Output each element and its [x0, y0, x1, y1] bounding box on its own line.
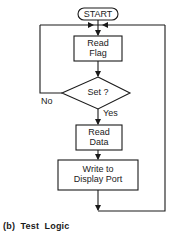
no-label: No — [41, 96, 61, 106]
flowchart-lines — [0, 0, 171, 233]
read-data-line1: Read — [76, 127, 122, 137]
write-port-line1: Write to — [58, 164, 138, 174]
read-data-line2: Data — [76, 137, 122, 147]
write-port-label: Write to Display Port — [58, 164, 138, 184]
yes-label: Yes — [103, 108, 125, 118]
decision-label: Set ? — [74, 87, 122, 97]
write-port-line2: Display Port — [58, 174, 138, 184]
read-data-label: Read Data — [76, 127, 122, 147]
start-label: START — [78, 9, 118, 19]
figure-caption: (b) Test Logic — [3, 221, 70, 231]
read-flag-label: Read Flag — [74, 38, 122, 58]
read-flag-line2: Flag — [74, 48, 122, 58]
read-flag-line1: Read — [74, 38, 122, 48]
